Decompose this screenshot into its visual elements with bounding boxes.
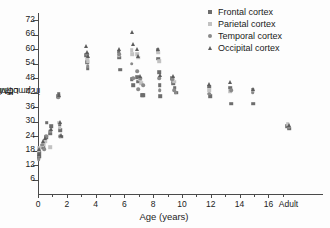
data-point xyxy=(43,136,47,140)
data-point xyxy=(131,52,135,56)
y-tick-label: 66 xyxy=(26,29,35,38)
data-point xyxy=(37,157,41,161)
x-tick-label: 0 xyxy=(36,199,41,209)
data-point xyxy=(86,59,90,63)
square-marker-icon xyxy=(205,10,215,14)
legend-item-parietal[interactable]: Parietal cortex xyxy=(205,18,327,30)
data-point xyxy=(136,54,140,58)
data-point xyxy=(136,69,140,73)
x-tick xyxy=(240,194,241,198)
x-tick xyxy=(268,194,269,198)
data-point xyxy=(37,152,41,156)
x-tick-label: 4 xyxy=(93,199,98,209)
data-point xyxy=(158,88,162,92)
data-point xyxy=(85,50,89,54)
data-point xyxy=(118,52,122,56)
y-tick-label: 42 xyxy=(26,87,35,96)
y-tick-label: 30 xyxy=(26,116,35,125)
data-point xyxy=(48,145,52,149)
x-minor-tick xyxy=(283,194,284,197)
y-axis-line xyxy=(38,13,39,194)
data-point xyxy=(229,102,233,106)
data-point xyxy=(49,127,53,131)
data-point xyxy=(58,120,62,124)
x-tick-label: 6 xyxy=(122,199,127,209)
legend-item-temporal[interactable]: Temporal cortex xyxy=(205,30,327,42)
square-marker-icon xyxy=(205,22,215,26)
data-point xyxy=(157,76,161,80)
data-point xyxy=(84,44,88,48)
data-point xyxy=(158,73,162,77)
data-point xyxy=(158,84,162,88)
x-minor-tick xyxy=(139,194,140,197)
legend-label: Parietal cortex xyxy=(215,19,276,29)
x-tick xyxy=(96,194,97,198)
legend-label: Temporal cortex xyxy=(215,31,282,41)
x-tick xyxy=(67,194,68,198)
y-tick-label: 60 xyxy=(26,44,35,53)
data-point xyxy=(37,147,41,151)
y-tick-label: 36 xyxy=(26,102,35,111)
data-point xyxy=(43,148,47,152)
data-point xyxy=(157,59,161,63)
circle-marker-icon xyxy=(205,34,215,38)
data-point xyxy=(251,91,255,95)
y-tick-label: 12 xyxy=(26,160,35,169)
x-minor-tick xyxy=(81,194,82,197)
x-minor-tick xyxy=(254,194,255,197)
x-tick-label: 10 xyxy=(177,199,186,209)
x-tick xyxy=(124,194,125,198)
x-tick-label: 12 xyxy=(206,199,215,209)
data-point xyxy=(171,74,175,78)
data-point xyxy=(41,143,45,147)
data-point xyxy=(170,78,174,82)
x-tick-label: 2 xyxy=(64,199,69,209)
data-point xyxy=(228,80,232,84)
y-tick-label: 72 xyxy=(26,15,35,24)
x-minor-tick xyxy=(168,194,169,197)
x-tick-label: Adult xyxy=(279,199,298,209)
data-point xyxy=(130,62,134,66)
x-minor-tick xyxy=(110,194,111,197)
data-point xyxy=(287,123,291,127)
legend-item-occipital[interactable]: Occipital cortex xyxy=(205,42,327,54)
triangle-marker-icon xyxy=(205,46,215,50)
x-tick xyxy=(38,194,39,198)
x-tick xyxy=(211,194,212,198)
legend-label: Frontal cortex xyxy=(215,7,273,17)
figure: LCMRglc in µmol/min/100g Age (years) 612… xyxy=(0,0,330,228)
legend: Frontal cortexParietal cortexTemporal co… xyxy=(205,6,327,54)
legend-item-frontal[interactable]: Frontal cortex xyxy=(205,6,327,18)
data-point xyxy=(229,88,233,92)
y-tick-label: 48 xyxy=(26,73,35,82)
data-point xyxy=(174,91,178,95)
data-point xyxy=(57,93,61,97)
data-point xyxy=(141,93,145,97)
data-point xyxy=(141,84,145,88)
data-point xyxy=(118,68,122,72)
data-point xyxy=(131,42,135,46)
x-tick-label: 16 xyxy=(264,199,273,209)
x-minor-tick xyxy=(225,194,226,197)
data-point xyxy=(45,121,49,125)
y-tick-label: 54 xyxy=(26,58,35,67)
y-tick-label: 24 xyxy=(26,131,35,140)
data-point xyxy=(58,126,62,130)
data-point xyxy=(86,64,90,68)
data-point xyxy=(159,94,163,98)
data-point xyxy=(130,30,134,34)
data-point xyxy=(86,54,90,58)
data-point xyxy=(117,47,121,51)
x-tick xyxy=(153,194,154,198)
data-point xyxy=(251,102,255,106)
legend-label: Occipital cortex xyxy=(215,43,280,53)
x-minor-tick xyxy=(52,194,53,197)
data-point xyxy=(138,74,142,78)
y-tick-label: 6 xyxy=(30,174,35,183)
data-point xyxy=(156,51,160,55)
data-point xyxy=(251,87,255,91)
data-point xyxy=(156,47,160,51)
y-tick-label: 18 xyxy=(26,145,35,154)
x-minor-tick xyxy=(196,194,197,197)
data-point xyxy=(131,84,135,88)
